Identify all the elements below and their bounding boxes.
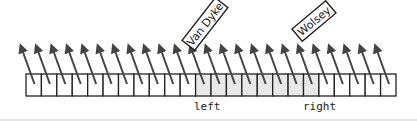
array-cell — [226, 74, 241, 96]
array-cell — [119, 74, 134, 96]
array-cell — [149, 74, 164, 96]
array-cell — [57, 74, 72, 96]
callout-van-dyke-label: Van Dyke — [184, 0, 226, 49]
array-cell — [134, 74, 149, 96]
array-cell — [72, 74, 87, 96]
array-diagram: Van Dyke Wolsey left right — [0, 0, 417, 121]
callout-van-dyke: Van Dyke — [182, 0, 228, 50]
right-pointer-label: right — [303, 100, 336, 113]
array-cell — [319, 74, 334, 96]
callout-wolsey: Wolsey — [292, 1, 336, 42]
array-cell — [350, 74, 365, 96]
array-cell — [288, 74, 303, 96]
array-cell — [304, 74, 319, 96]
array-cell — [103, 74, 118, 96]
array-cell — [41, 74, 56, 96]
array-cell — [381, 74, 396, 96]
array-cell — [196, 74, 211, 96]
bottom-divider — [0, 119, 417, 121]
array-cell — [242, 74, 257, 96]
array-cell — [180, 74, 195, 96]
array-cell — [334, 74, 349, 96]
array-cell — [365, 74, 380, 96]
array-cell — [257, 74, 272, 96]
array-cell — [88, 74, 103, 96]
array-cell — [273, 74, 288, 96]
array-cell — [26, 74, 41, 96]
array-cell — [211, 74, 226, 96]
array-cell — [165, 74, 180, 96]
left-pointer-label: left — [194, 100, 221, 113]
